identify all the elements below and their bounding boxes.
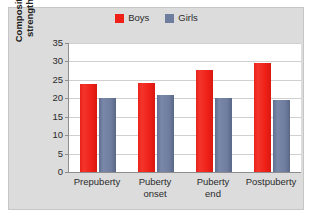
bar-boys <box>196 70 213 172</box>
bar-girls <box>215 98 232 172</box>
bar-group <box>69 43 127 172</box>
y-tick-label: 10 <box>52 130 63 140</box>
bar-groups <box>69 43 301 172</box>
y-tick-label: 20 <box>52 93 63 103</box>
x-axis-label-line1: Puberty <box>184 176 242 188</box>
y-tick-label: 5 <box>58 149 63 159</box>
x-axis-label-line2: end <box>184 188 242 200</box>
x-axis-label-line1: Prepuberty <box>68 176 126 188</box>
x-axis-labels: PrepubertyPubertyonsetPubertyendPostpube… <box>68 176 300 206</box>
chart-legend: Boys Girls <box>0 11 313 25</box>
bar-girls <box>157 95 174 172</box>
y-tick-label: 35 <box>52 38 63 48</box>
x-axis-label: Postpuberty <box>242 176 300 206</box>
x-axis-label-line1: Postpuberty <box>242 176 300 188</box>
bar-boys <box>138 83 155 172</box>
bar-boys <box>80 84 97 172</box>
y-tick-label: 25 <box>52 75 63 85</box>
legend-label-boys: Boys <box>128 13 149 23</box>
legend-swatch-girls-icon <box>165 14 174 23</box>
plot-area: 05101520253035 <box>68 43 301 173</box>
x-axis-label-line2: onset <box>126 188 184 200</box>
y-tick-label: 30 <box>52 56 63 66</box>
bar-group <box>127 43 185 172</box>
legend-item-girls: Girls <box>165 13 198 23</box>
y-tick-label: 15 <box>52 112 63 122</box>
y-tick-label: 0 <box>58 167 63 177</box>
legend-swatch-boys-icon <box>115 14 124 23</box>
x-axis-label: Pubertyonset <box>126 176 184 206</box>
x-axis-label: Pubertyend <box>184 176 242 206</box>
x-axis-label: Prepuberty <box>68 176 126 206</box>
y-tick-mark <box>65 172 69 173</box>
bar-group <box>185 43 243 172</box>
bar-girls <box>99 98 116 172</box>
bar-chart-figure: Boys Girls Composite static strength sco… <box>0 0 313 220</box>
legend-label-girls: Girls <box>178 13 198 23</box>
bar-group <box>243 43 301 172</box>
legend-item-boys: Boys <box>115 13 149 23</box>
bar-boys <box>254 63 271 172</box>
bar-girls <box>273 100 290 172</box>
x-axis-label-line1: Puberty <box>126 176 184 188</box>
